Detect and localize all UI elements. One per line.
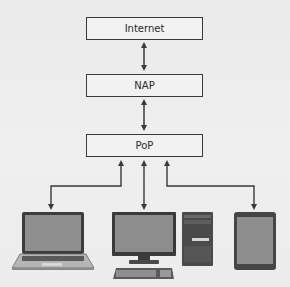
diagram-canvas: Internet NAP PoP [0,0,290,287]
tablet-icon [234,212,276,270]
connectors [0,0,290,287]
computer-tower-icon [182,212,213,266]
laptop-icon [12,212,94,270]
desktop-monitor-icon [112,212,176,264]
pop-laptop-arrow [51,163,121,207]
keyboard-icon [113,268,174,279]
pop-tablet-arrow [167,163,254,207]
